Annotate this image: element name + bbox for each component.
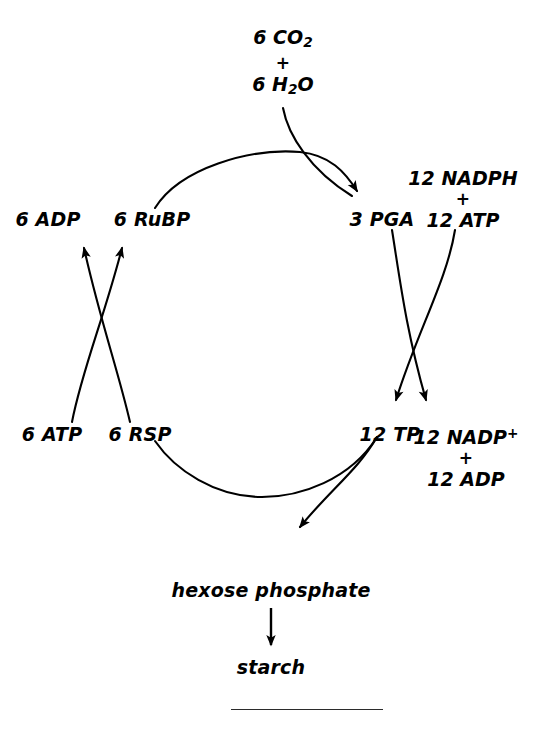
nadp-superscript-plus: + [507, 425, 518, 441]
input-plus-sign: + [252, 54, 313, 73]
pga-3-label: 3 PGA [349, 207, 414, 231]
nadph-plus-sign: + [408, 190, 517, 209]
nadph-atp-input-label: 12 NADPH + 12 ATP [408, 167, 517, 232]
tp-12-label: 12 TP [360, 422, 421, 446]
rsp-6-label: 6 RSP [108, 422, 171, 446]
footer-divider [231, 709, 383, 710]
rsp-to-adp-arrow [84, 248, 130, 422]
atp-to-rubp-arrow [72, 248, 122, 422]
pga-to-nadp-arrow [392, 230, 426, 400]
nadp-adp-output-label: 12 NADP+ + 12 ADP [414, 422, 519, 491]
adp-6-label: 6 ADP [15, 207, 80, 231]
cycle-bottom-arc [155, 437, 377, 497]
nadp-plus-sign: + [414, 449, 519, 468]
co2-water-input-label: 6 CO2 + 6 H2O [252, 26, 313, 102]
diagram-canvas [0, 0, 538, 736]
hexose-phosphate-label: hexose phosphate [171, 578, 370, 602]
tp-to-hexose-arrow [300, 437, 377, 527]
starch-label: starch [237, 655, 306, 679]
cycle-top-arc-arrow [155, 151, 357, 208]
atp-12-label: 12 ATP [408, 209, 517, 232]
adp-12-label: 12 ADP [414, 468, 519, 491]
co2-subscript: 2 [303, 34, 313, 50]
h2o-subscript: 2 [288, 82, 298, 98]
nadp-plus-label: 12 NADP+ [414, 422, 519, 449]
co2-label: 6 CO2 [252, 26, 313, 54]
water-label: 6 H2O [252, 73, 313, 101]
calvin-cycle-diagram: 6 CO2 + 6 H2O 12 NADPH + 12 ATP 6 ADP 6 … [0, 0, 538, 736]
atp-6-label: 6 ATP [22, 422, 83, 446]
nadph-label: 12 NADPH [408, 167, 517, 190]
rubp-6-label: 6 RuBP [114, 207, 191, 231]
